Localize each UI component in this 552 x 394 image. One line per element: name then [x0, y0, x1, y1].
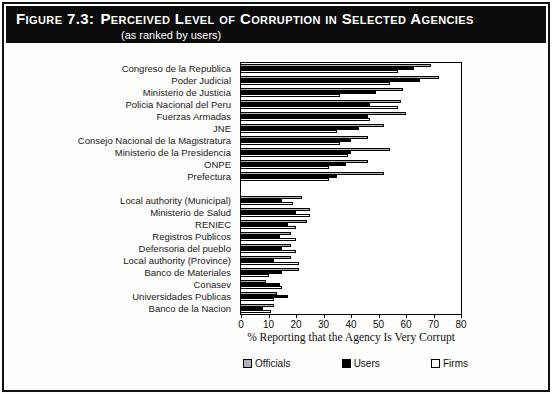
bar-group — [241, 290, 461, 302]
x-tick-mark — [461, 314, 462, 318]
bar-firms — [241, 178, 329, 181]
category-label: Registros Publicos — [4, 231, 236, 243]
legend-label: Firms — [443, 358, 468, 369]
bar-group — [241, 87, 461, 99]
category-label: Ministerio de Justicia — [4, 86, 236, 98]
bar-firms — [241, 154, 348, 157]
bar-firms — [241, 70, 398, 73]
x-tick-label: 80 — [449, 319, 473, 330]
bar-group — [241, 63, 461, 75]
category-label: ONPE — [4, 158, 236, 170]
category-label: Ministerio de Salud — [4, 207, 236, 219]
x-tick-label: 70 — [422, 319, 446, 330]
bar-firms — [241, 82, 390, 85]
legend-swatch-firms — [431, 359, 440, 368]
bar-group — [241, 302, 461, 314]
bar-group — [241, 123, 461, 135]
category-label: Conasev — [4, 279, 236, 291]
bar-group — [241, 194, 461, 206]
x-tick-mark — [241, 314, 242, 318]
x-tick-label: 10 — [257, 319, 281, 330]
category-label: Consejo Nacional de la Magistratura — [4, 134, 236, 146]
category-label: Local authority (Municipal) — [4, 195, 236, 207]
bar-group — [241, 111, 461, 123]
x-tick-mark — [351, 314, 352, 318]
x-tick-mark — [296, 314, 297, 318]
x-tick-label: 50 — [367, 319, 391, 330]
bar-group — [241, 147, 461, 159]
x-tick-mark — [269, 314, 270, 318]
bar-firms — [241, 250, 296, 253]
category-label: Fuerzas Armadas — [4, 110, 236, 122]
bar-firms — [241, 166, 329, 169]
category-label: JNE — [4, 122, 236, 134]
category-label: Defensoria del pueblo — [4, 243, 236, 255]
category-label: Banco de Materiales — [4, 267, 236, 279]
legend-item-officials: Officials — [243, 358, 290, 369]
bar-firms — [241, 118, 370, 121]
legend-swatch-officials — [243, 359, 252, 368]
category-label: Poder Judicial — [4, 74, 236, 86]
legend-item-users: Users — [342, 358, 380, 369]
x-tick-mark — [379, 314, 380, 318]
category-label: Policia Nacional del Peru — [4, 98, 236, 110]
bar-group — [241, 230, 461, 242]
bar-group — [241, 242, 461, 254]
bar-firms — [241, 286, 282, 289]
x-axis-title: % Reporting that the Agency Is Very Corr… — [225, 331, 477, 343]
x-tick-mark — [324, 314, 325, 318]
legend-item-firms: Firms — [431, 358, 468, 369]
x-tick-label: 20 — [284, 319, 308, 330]
bar-firms — [241, 262, 299, 265]
bar-firms — [241, 130, 337, 133]
bar-group — [241, 206, 461, 218]
bar-group — [241, 266, 461, 278]
x-tick-label: 40 — [339, 319, 363, 330]
category-label: Banco de la Nacion — [4, 303, 236, 315]
bar-firms — [241, 94, 340, 97]
bar-chart: Congreso de la RepublicaPoder JudicialMi… — [0, 0, 552, 394]
category-label: Universidades Publicas — [4, 291, 236, 303]
category-label: Local authority (Province) — [4, 255, 236, 267]
figure-7-3-panel: Figure 7.3:Perceived Level of Corruption… — [0, 0, 552, 394]
category-axis-labels: Congreso de la RepublicaPoder JudicialMi… — [4, 62, 236, 315]
bar-group — [241, 254, 461, 266]
bar-group — [241, 135, 461, 147]
x-tick-label: 30 — [312, 319, 336, 330]
bar-firms — [241, 142, 340, 145]
bar-firms — [241, 202, 293, 205]
legend-label: Users — [354, 358, 380, 369]
bar-group — [241, 99, 461, 111]
legend-swatch-users — [342, 359, 351, 368]
bar-group — [241, 159, 461, 171]
bar-firms — [241, 106, 398, 109]
bar-group — [241, 75, 461, 87]
x-tick-label: 0 — [229, 319, 253, 330]
x-tick-label: 60 — [394, 319, 418, 330]
category-label: Congreso de la Republica — [4, 62, 236, 74]
legend-label: Officials — [255, 358, 290, 369]
bar-firms — [241, 238, 296, 241]
bar-firms — [241, 310, 271, 313]
plot-area — [240, 62, 462, 315]
category-label: Prefectura — [4, 170, 236, 182]
category-label: Ministerio de la Presidencia — [4, 146, 236, 158]
x-tick-mark — [434, 314, 435, 318]
bar-group — [241, 218, 461, 230]
bar-firms — [241, 274, 269, 277]
legend: OfficialsUsersFirms — [243, 358, 468, 369]
category-label: RENIEC — [4, 219, 236, 231]
bar-group — [241, 278, 461, 290]
bar-group — [241, 171, 461, 183]
bar-firms — [241, 214, 310, 217]
bar-firms — [241, 298, 274, 301]
bar-firms — [241, 226, 296, 229]
x-tick-mark — [406, 314, 407, 318]
